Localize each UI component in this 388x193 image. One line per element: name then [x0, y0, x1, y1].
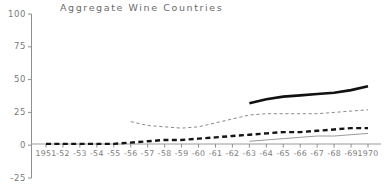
x-tick-label: -52: [56, 149, 70, 158]
x-tick-label: -68: [327, 149, 341, 158]
x-tick-label: -56: [124, 149, 138, 158]
x-tick-label: -60: [192, 149, 206, 158]
x-tick-label: -67: [310, 149, 324, 158]
x-tick-label: -57: [141, 149, 155, 158]
series-thick-solid-series: [249, 86, 368, 103]
chart-container: Aggregate Wine Countries 1007550250-25 1…: [0, 0, 388, 193]
x-tick-label: 1951: [35, 149, 56, 158]
y-tick-label: 0: [0, 140, 26, 150]
plot-area: [0, 0, 388, 193]
x-tick-label: -63: [243, 149, 257, 158]
x-tick-label: -64: [259, 149, 273, 158]
x-tick-label: -54: [90, 149, 104, 158]
x-tick-label: -53: [73, 149, 87, 158]
y-tick-label: 25: [0, 107, 26, 117]
x-tick-label: -62: [226, 149, 240, 158]
y-tick-label: 100: [0, 9, 26, 19]
data-series-group: [46, 86, 368, 144]
y-tick-label: 75: [0, 41, 26, 51]
x-tick-label: 1970: [357, 149, 378, 158]
x-tick-label: -58: [158, 149, 172, 158]
x-tick-label: -61: [209, 149, 223, 158]
x-tick-label: -69: [344, 149, 358, 158]
x-tick-label: -65: [276, 149, 290, 158]
x-tick-label: -55: [107, 149, 121, 158]
y-axis: [28, 14, 32, 178]
y-tick-label: 50: [0, 74, 26, 84]
series-thin-dashed-series: [131, 110, 368, 128]
x-tick-label: -66: [293, 149, 307, 158]
x-tick-label: -59: [175, 149, 189, 158]
y-tick-label: -25: [0, 173, 26, 183]
series-thin-solid-series: [249, 133, 368, 141]
